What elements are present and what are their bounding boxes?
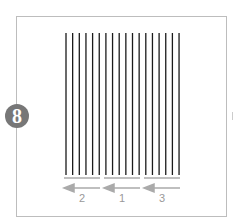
group-label: 1: [112, 192, 132, 204]
group-label: 3: [152, 192, 172, 204]
direction-arrows: [64, 184, 180, 192]
arrow-left-icon: [64, 184, 74, 192]
arrow-left-icon: [104, 184, 114, 192]
vertical-lines-diagram: [0, 0, 234, 224]
arrow-left-icon: [144, 184, 154, 192]
group-label: 2: [72, 192, 92, 204]
vertical-lines: [66, 33, 179, 175]
